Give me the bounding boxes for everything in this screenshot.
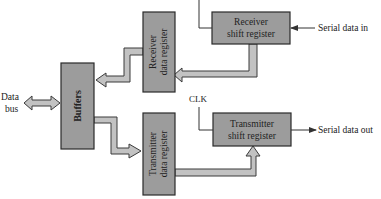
data-bus-label-line1: Data (1, 92, 20, 102)
data-bus-label-line2: bus (5, 104, 19, 114)
transmitter-shift-register-label-line2: shift register (228, 131, 277, 141)
data-bus-bidirectional-arrow (24, 96, 60, 110)
receiver-data-register-label-line2: data register (159, 28, 169, 76)
clk-label: CLK (189, 94, 208, 104)
receiver-shift-register-block: Receiver shift register (212, 12, 290, 44)
receiver-data-register-label-line1: Receiver (148, 34, 158, 69)
serial-data-out-label: Serial data out (318, 125, 373, 135)
transmitter-data-register-block: Transmitter data register (143, 113, 175, 195)
serial-data-in-label: Serial data in (318, 23, 368, 33)
uart-block-diagram: Buffers Receiver data register Transmitt… (0, 0, 381, 199)
transmitter-shift-register-label-line1: Transmitter (230, 119, 275, 129)
buffers-block: Buffers (61, 63, 94, 149)
transmitter-data-register-label-line2: data register (159, 130, 169, 178)
buffers-label: Buffers (72, 90, 83, 122)
transmitter-data-register-label-line1: Transmitter (148, 131, 158, 176)
receiver-shift-register-label-line1: Receiver (234, 17, 269, 27)
clk-line-receiver (199, 0, 212, 28)
bus-arrow-buffers-to-tx-data (94, 117, 141, 158)
bus-arrow-tx-data-to-tx-shift (175, 146, 260, 176)
receiver-shift-register-label-line2: shift register (227, 29, 276, 39)
receiver-data-register-block: Receiver data register (143, 12, 175, 92)
transmitter-shift-register-block: Transmitter shift register (213, 113, 291, 146)
bus-arrow-rx-data-to-buffers (96, 48, 143, 87)
clk-line-transmitter (199, 107, 213, 130)
bus-arrow-rx-shift-to-rx-data (174, 44, 257, 82)
